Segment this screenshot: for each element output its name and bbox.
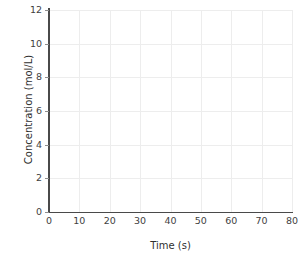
gridline-horizontal	[49, 111, 292, 112]
x-axis-spine	[48, 212, 293, 214]
y-tick-mark	[45, 212, 49, 213]
y-axis-title: Concentration (mol/L)	[23, 10, 34, 210]
plot-area	[49, 10, 292, 212]
y-tick-mark	[45, 111, 49, 112]
y-tick-mark	[45, 44, 49, 45]
x-tick-label: 80	[272, 215, 302, 226]
gridline-horizontal	[49, 77, 292, 78]
gridline-horizontal	[49, 145, 292, 146]
y-tick-mark	[45, 178, 49, 179]
chart-figure: 01020304050607080024681012 Time (s) Conc…	[0, 0, 302, 264]
gridline-horizontal	[49, 10, 292, 11]
x-axis-title: Time (s)	[49, 240, 292, 251]
y-tick-mark	[45, 77, 49, 78]
gridline-horizontal	[49, 44, 292, 45]
y-tick-mark	[45, 10, 49, 11]
gridline-horizontal	[49, 178, 292, 179]
gridline-vertical	[292, 10, 293, 212]
y-tick-mark	[45, 145, 49, 146]
